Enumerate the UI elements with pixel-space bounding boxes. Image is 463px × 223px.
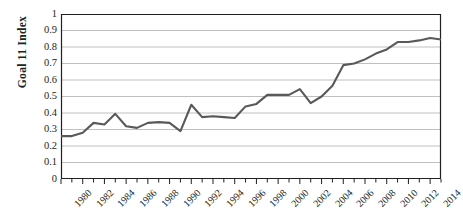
x-tick-label: 1994 [224,187,246,209]
data-line-goal-11-index [61,38,441,136]
x-tick-label: 1982 [94,187,116,209]
x-tick-label: 1980 [72,187,94,209]
x-tick-label: 1990 [180,187,202,209]
y-tick-label: 1 [31,9,57,20]
x-tick-label: 2006 [354,187,376,209]
y-tick-label: 0.6 [31,75,57,86]
x-tick-label: 1996 [246,187,268,209]
y-tick-label: 0.4 [31,108,57,119]
x-tick-label: 2008 [376,187,398,209]
y-axis-label: Goal 11 Index [16,0,28,122]
x-tick-label: 1984 [115,187,137,209]
x-tick-label: 1988 [159,187,181,209]
x-tick-label: 1992 [202,187,224,209]
plot-area [61,14,441,179]
x-tick-label: 2010 [398,187,420,209]
chart-svg [61,14,441,179]
y-tick-label: 0.9 [31,25,57,36]
y-tick-label: 0.2 [31,141,57,152]
x-tick-label: 1998 [267,187,289,209]
y-tick-label: 0.8 [31,42,57,53]
x-axis-tick-labels: 1980198219841986198819901992199419961998… [61,179,441,223]
y-axis-tick-labels: 10.90.80.70.60.50.40.30.20.10 [28,0,57,223]
x-tick-label: 1986 [137,187,159,209]
y-tick-label: 0.5 [31,91,57,102]
y-tick-label: 0.3 [31,124,57,135]
y-tick-label: 0.7 [31,58,57,69]
y-tick-label: 0 [31,174,57,185]
x-tick-label: 2014 [441,187,463,209]
x-tick-label: 2012 [419,187,441,209]
y-tick-label: 0.1 [31,157,57,168]
x-tick-label: 2000 [289,187,311,209]
x-tick-label: 2004 [332,187,354,209]
x-tick-label: 2002 [311,187,333,209]
